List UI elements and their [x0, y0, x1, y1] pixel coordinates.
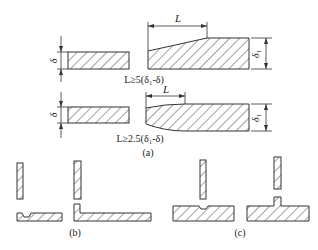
row1-thin-label: δ: [48, 58, 59, 63]
part-c-joint-1: [173, 160, 234, 221]
row1-thin-plate: [68, 52, 129, 69]
caption-c: (c): [234, 227, 245, 239]
caption-b: (b): [69, 227, 81, 239]
row2-thin-label: δ: [48, 112, 59, 117]
row2-thick-label: δ₁: [250, 114, 261, 122]
row2-thin-plate: [68, 107, 129, 123]
row1-thick-label: δ₁: [250, 50, 261, 58]
part-b-joint-2: [74, 161, 151, 221]
welding-joint-diagram: δ L δ₁ L≥5(δ₁-δ) δ L: [0, 0, 318, 250]
caption-a: (a): [142, 147, 153, 159]
part-b-joint-1: [17, 163, 62, 221]
row2-length-label: L: [162, 83, 169, 95]
part-c-joint-2: [247, 157, 309, 221]
row2-formula: L≥2.5(δ₁-δ): [117, 133, 164, 145]
row1-thick-plate: [148, 38, 249, 69]
row1-length-label: L: [174, 12, 181, 24]
row2-thick-plate: [146, 104, 249, 131]
row1-formula: L≥5(δ₁-δ): [124, 74, 164, 86]
